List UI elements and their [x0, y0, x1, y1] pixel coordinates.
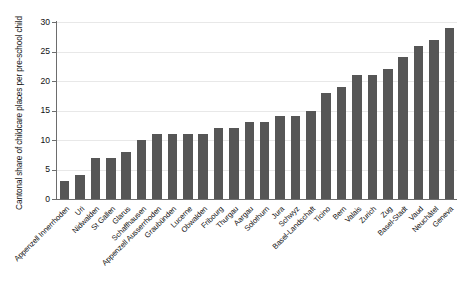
- y-tick-label: 25: [20, 47, 50, 56]
- x-axis-label: St Gallen: [26, 204, 117, 295]
- x-axis-label: Vaud: [333, 204, 424, 295]
- x-axis-label: Valais: [272, 204, 363, 295]
- x-axis-label: Obwalden: [118, 204, 209, 295]
- gridline: [57, 170, 457, 171]
- bar: [306, 111, 316, 200]
- x-axis-label: Uri: [0, 204, 86, 295]
- x-axis-label: Ticino: [241, 204, 332, 295]
- bar: [198, 134, 208, 199]
- gridline: [57, 111, 457, 112]
- bar: [275, 116, 285, 199]
- bar-chart-figure: Cantonal share of childcare places per p…: [0, 0, 463, 307]
- x-axis-label: Graubünden: [87, 204, 178, 295]
- y-tick-mark: [52, 170, 56, 171]
- gridline: [57, 22, 457, 23]
- y-tick-label: 5: [20, 165, 50, 174]
- y-tick-label: 0: [20, 195, 50, 204]
- bar: [291, 116, 301, 199]
- x-axis-label: Glarus: [41, 204, 132, 295]
- bar: [445, 28, 455, 199]
- x-axis-label: Schaffhausen: [57, 204, 148, 295]
- x-axis-label: Solothurn: [180, 204, 271, 295]
- x-axis-label: Bern: [257, 204, 348, 295]
- y-tick-label: 30: [20, 18, 50, 27]
- x-axis-label: Schwyz: [210, 204, 301, 295]
- bar: [352, 75, 362, 199]
- bar: [121, 152, 131, 199]
- bar: [429, 40, 439, 199]
- y-tick-mark: [52, 199, 56, 200]
- x-axis-label: Geneva: [364, 204, 455, 295]
- bar: [260, 122, 270, 199]
- x-axis-label: Aargau: [164, 204, 255, 295]
- bar: [168, 134, 178, 199]
- x-axis-label: Basel-Landschaft: [226, 204, 317, 295]
- plot-area: [57, 22, 457, 199]
- x-axis-label: Neuchâtel: [349, 204, 440, 295]
- bar: [229, 128, 239, 199]
- x-axis-label: Jura: [195, 204, 286, 295]
- bar: [245, 122, 255, 199]
- y-tick-mark: [52, 140, 56, 141]
- x-axis-label: Lucerne: [103, 204, 194, 295]
- y-tick-mark: [52, 81, 56, 82]
- x-axis-label: Nidwalden: [10, 204, 101, 295]
- y-tick-label: 20: [20, 77, 50, 86]
- bar: [183, 134, 193, 199]
- bar: [106, 158, 116, 199]
- bar: [152, 134, 162, 199]
- x-axis-label: Basel-Stadt: [318, 204, 409, 295]
- gridline: [57, 52, 457, 53]
- x-axis-label: Appenzell Ausserrhoden: [72, 204, 163, 295]
- gridline: [57, 81, 457, 82]
- bar: [337, 87, 347, 199]
- x-axis-label: Appenzell Innerrhoden: [0, 204, 71, 295]
- bar: [60, 181, 70, 199]
- bar: [321, 93, 331, 199]
- x-axis-line: [56, 199, 457, 200]
- x-axis-label: Fribourg: [133, 204, 224, 295]
- bar: [368, 75, 378, 199]
- y-tick-label: 15: [20, 106, 50, 115]
- x-axis-label: Zug: [303, 204, 394, 295]
- y-tick-mark: [52, 52, 56, 53]
- y-tick-label: 10: [20, 136, 50, 145]
- gridline: [57, 140, 457, 141]
- y-tick-mark: [52, 111, 56, 112]
- x-axis-label: Zurich: [287, 204, 378, 295]
- bar: [398, 57, 408, 199]
- y-tick-mark: [52, 22, 56, 23]
- bar: [91, 158, 101, 199]
- x-axis-label: Thurgau: [149, 204, 240, 295]
- bar: [214, 128, 224, 199]
- bar: [137, 140, 147, 199]
- bar: [75, 175, 85, 199]
- bar: [414, 46, 424, 199]
- bar: [383, 69, 393, 199]
